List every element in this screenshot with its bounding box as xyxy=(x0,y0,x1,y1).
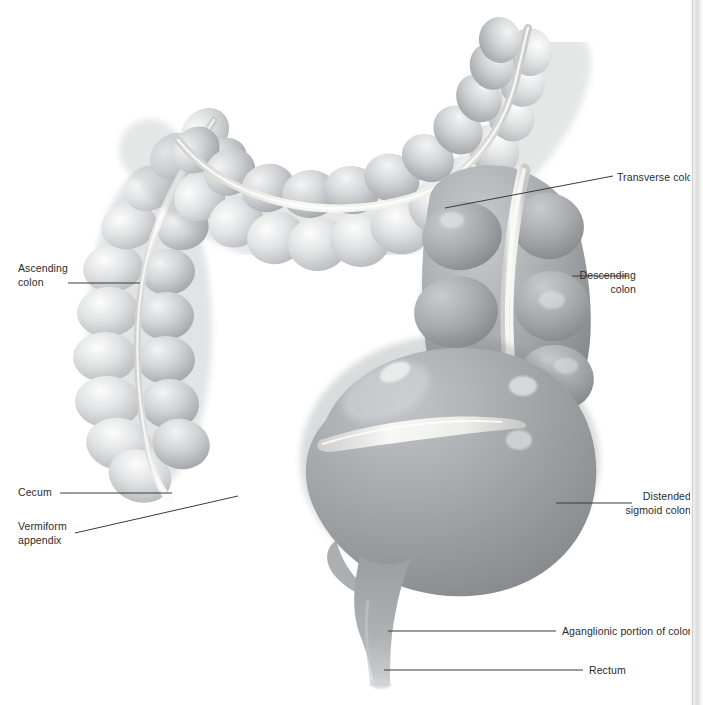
label-transverse-colon: Transverse colon xyxy=(617,171,699,185)
colon-anatomy-illustration xyxy=(0,0,703,705)
label-descending-colon: Descending colon xyxy=(516,269,636,296)
aganglionic-segment-and-rectum xyxy=(354,556,412,689)
page-edge-divider xyxy=(692,0,693,705)
label-aganglionic-portion: Aganglionic portion of colon xyxy=(562,625,694,639)
label-vermiform-appendix: Vermiform appendix xyxy=(18,520,67,547)
label-distended-sigmoid-colon: Distended sigmoid colon xyxy=(561,490,691,517)
label-ascending-colon: Ascending colon xyxy=(18,262,68,289)
label-cecum: Cecum xyxy=(18,486,52,500)
label-rectum: Rectum xyxy=(589,664,626,678)
leader-vermiform-appendix xyxy=(75,496,238,533)
distended-sigmoid-colon-structure xyxy=(300,335,600,598)
